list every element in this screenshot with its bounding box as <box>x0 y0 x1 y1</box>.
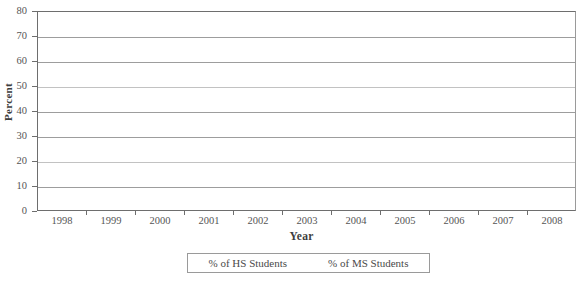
y-tick-label: 40 <box>17 106 28 116</box>
gridline-40 <box>38 112 575 113</box>
y-tick-label: 70 <box>17 31 28 41</box>
y-tick-label: 30 <box>17 131 28 141</box>
x-axis-tick-labels: 1998 1999 2000 2001 2002 2003 2004 2005 … <box>37 215 576 229</box>
legend-entry-hs: % of HS Students <box>209 257 288 269</box>
y-tick-label: 0 <box>22 206 27 216</box>
x-tick-label: 2001 <box>199 215 220 227</box>
x-tick-label: 2006 <box>444 215 465 227</box>
gridline-10 <box>38 187 575 188</box>
x-tick-label: 2004 <box>346 215 367 227</box>
y-tick-label: 80 <box>17 6 28 16</box>
gridline-30 <box>38 137 575 138</box>
x-tick-label: 2003 <box>297 215 318 227</box>
x-tick-label: 1999 <box>101 215 122 227</box>
gridline-70 <box>38 37 575 38</box>
y-tick-label: 60 <box>17 56 28 66</box>
y-tick-label: 20 <box>17 156 28 166</box>
legend-entry-ms: % of MS Students <box>328 257 408 269</box>
x-tick-label: 2005 <box>395 215 416 227</box>
x-tick-label: 2007 <box>493 215 514 227</box>
x-axis-title-wrap: Year <box>0 230 579 242</box>
x-tick-label: 2008 <box>542 215 563 227</box>
chart-legend: % of HS Students % of MS Students <box>187 253 430 273</box>
x-tick-label: 1998 <box>52 215 73 227</box>
x-tick-label: 2002 <box>248 215 269 227</box>
y-tick-label: 10 <box>17 181 28 191</box>
y-tick-label: 50 <box>17 81 28 91</box>
gridline-60 <box>38 62 575 63</box>
x-tick-label: 2000 <box>150 215 171 227</box>
x-axis-title: Year <box>289 230 313 242</box>
cut-off-title <box>0 0 579 5</box>
gridline-20 <box>38 162 575 163</box>
gridline-50 <box>38 87 575 88</box>
plot-area <box>37 11 576 211</box>
chart-figure: 80 70 60 50 40 30 20 10 0 Percent 1998 1… <box>0 0 579 281</box>
y-axis-title: Percent <box>2 72 14 132</box>
